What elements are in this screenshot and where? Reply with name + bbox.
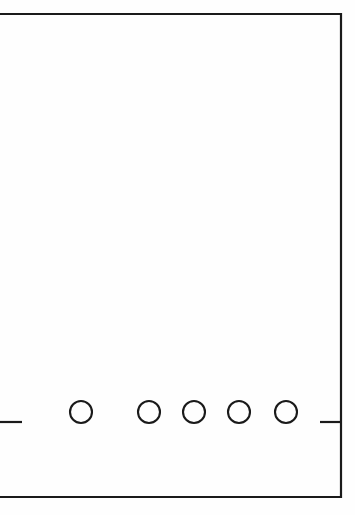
technical-figure (0, 0, 355, 515)
background-fill (0, 0, 355, 515)
drawing-canvas (0, 0, 355, 515)
